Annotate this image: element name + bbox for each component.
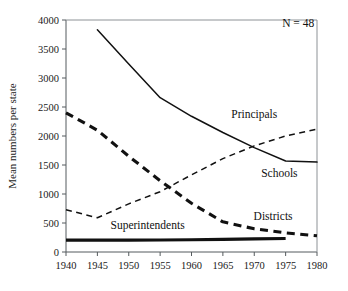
x-tick-label: 1960	[181, 260, 202, 271]
y-axis-title: Mean numbers per state	[6, 83, 18, 188]
y-tick-label: 1500	[38, 160, 59, 171]
series-label-schools: Schools	[261, 167, 298, 179]
x-tick-label: 1975	[275, 260, 296, 271]
y-tick-label: 3500	[38, 44, 59, 55]
chart-container: 05001000150020002500300035004000 1940194…	[0, 0, 348, 291]
y-tick-label: 500	[43, 218, 59, 229]
x-tick-label: 1965	[212, 260, 233, 271]
sample-size-annotation: N = 48	[282, 17, 314, 29]
y-tick-label: 2500	[38, 102, 59, 113]
line-chart: 05001000150020002500300035004000 1940194…	[0, 0, 348, 291]
series-labels: SchoolsDistrictsPrincipalsSuperintendent…	[111, 108, 299, 232]
series-line-superintendents	[66, 239, 286, 241]
x-tick-label: 1940	[56, 260, 77, 271]
y-tick-label: 4000	[38, 15, 59, 26]
series-label-districts: Districts	[254, 210, 293, 222]
x-tick-label: 1945	[87, 260, 108, 271]
x-tick-label: 1970	[244, 260, 265, 271]
x-axis-ticks: 194019451950195519601965197019751980	[56, 252, 328, 271]
y-tick-label: 0	[54, 247, 59, 258]
chart-annotations: N = 48	[282, 17, 314, 29]
x-tick-label: 1955	[150, 260, 171, 271]
y-axis-ticks: 05001000150020002500300035004000	[38, 15, 66, 258]
y-tick-label: 2000	[38, 131, 59, 142]
series-label-principals: Principals	[231, 108, 278, 121]
series-label-superintendents: Superintendents	[111, 219, 186, 232]
series-line-schools	[97, 30, 317, 162]
y-tick-label: 1000	[38, 189, 59, 200]
x-tick-label: 1950	[118, 260, 139, 271]
x-tick-label: 1980	[307, 260, 328, 271]
y-tick-label: 3000	[38, 73, 59, 84]
